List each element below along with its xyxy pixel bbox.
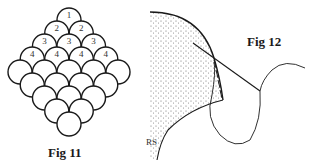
- fig12-drawing: [0, 0, 315, 165]
- fig12-caption: Fig 12: [247, 34, 281, 50]
- figure-plate: 1223334444 Fig 11 Fig 12 RS: [0, 0, 315, 165]
- thread-loop: [210, 62, 305, 144]
- right-side-label: RS: [146, 137, 157, 147]
- fabric-region: [150, 12, 223, 160]
